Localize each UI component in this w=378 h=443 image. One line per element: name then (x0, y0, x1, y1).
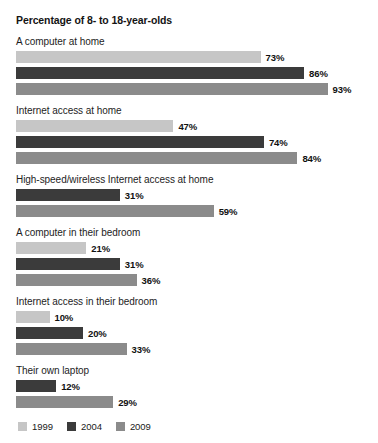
bar-group: High-speed/wireless Internet access at h… (16, 173, 366, 217)
bar-row: 33% (16, 343, 366, 355)
bar-2004 (16, 380, 56, 392)
bar-value-label: 10% (55, 312, 74, 323)
legend-label: 2004 (81, 421, 102, 432)
bar-value-label: 93% (333, 84, 352, 95)
bar-group-label: Their own laptop (16, 364, 366, 377)
bar-value-label: 20% (88, 328, 107, 339)
bar-row: 21% (16, 242, 366, 254)
legend-item-2004[interactable]: 2004 (67, 421, 102, 432)
bar-group: Their own laptop12%29% (16, 364, 366, 408)
bar-row: 59% (16, 205, 366, 217)
bar-row: 73% (16, 51, 366, 63)
legend-swatch-icon (18, 422, 27, 431)
bar-group: Internet access at home47%74%84% (16, 104, 366, 164)
bar-group-label: High-speed/wireless Internet access at h… (16, 173, 366, 186)
bar-row: 36% (16, 274, 366, 286)
bar-2004 (16, 189, 120, 201)
bar-value-label: 12% (61, 381, 80, 392)
bar-1999 (16, 120, 173, 132)
bar-row: 93% (16, 83, 366, 95)
bar-row: 86% (16, 67, 366, 79)
bar-group: A computer at home73%86%93% (16, 35, 366, 95)
bar-row: 47% (16, 120, 366, 132)
chart-title: Percentage of 8- to 18-year-olds (16, 14, 366, 27)
bar-value-label: 74% (269, 137, 288, 148)
bar-value-label: 21% (91, 243, 110, 254)
bar-1999 (16, 51, 261, 63)
bar-value-label: 29% (118, 397, 137, 408)
legend-label: 2009 (130, 421, 151, 432)
bar-value-label: 59% (219, 206, 238, 217)
bar-group-label: A computer in their bedroom (16, 226, 366, 239)
bar-group-label: Internet access in their bedroom (16, 295, 366, 308)
legend-swatch-icon (67, 422, 76, 431)
legend-item-1999[interactable]: 1999 (18, 421, 53, 432)
bar-row: 31% (16, 189, 366, 201)
bar-row: 12% (16, 380, 366, 392)
bar-group-list: A computer at home73%86%93%Internet acce… (16, 35, 366, 408)
bar-2004 (16, 258, 120, 270)
chart-legend: 199920042009 (16, 421, 366, 432)
bar-group: A computer in their bedroom21%31%36% (16, 226, 366, 286)
bar-row: 10% (16, 311, 366, 323)
bar-row: 31% (16, 258, 366, 270)
legend-item-2009[interactable]: 2009 (116, 421, 151, 432)
bar-value-label: 33% (132, 344, 151, 355)
bar-2004 (16, 67, 304, 79)
bar-2009 (16, 343, 127, 355)
legend-label: 1999 (32, 421, 53, 432)
bar-2009 (16, 152, 297, 164)
bar-value-label: 86% (309, 68, 328, 79)
bar-2009 (16, 205, 214, 217)
bar-2009 (16, 396, 113, 408)
bar-value-label: 47% (178, 121, 197, 132)
bar-value-label: 84% (302, 153, 321, 164)
bar-row: 74% (16, 136, 366, 148)
bar-2009 (16, 83, 328, 95)
bar-1999 (16, 311, 50, 323)
bar-group-label: Internet access at home (16, 104, 366, 117)
bar-group: Internet access in their bedroom10%20%33… (16, 295, 366, 355)
bar-value-label: 73% (266, 52, 285, 63)
bar-2004 (16, 327, 83, 339)
bar-row: 29% (16, 396, 366, 408)
bar-chart-figure: Percentage of 8- to 18-year-olds A compu… (0, 0, 378, 443)
bar-row: 20% (16, 327, 366, 339)
bar-2004 (16, 136, 264, 148)
bar-value-label: 31% (125, 190, 144, 201)
bar-value-label: 31% (125, 259, 144, 270)
bar-1999 (16, 242, 86, 254)
bar-2009 (16, 274, 137, 286)
legend-swatch-icon (116, 422, 125, 431)
bar-row: 84% (16, 152, 366, 164)
bar-value-label: 36% (142, 275, 161, 286)
bar-group-label: A computer at home (16, 35, 366, 48)
